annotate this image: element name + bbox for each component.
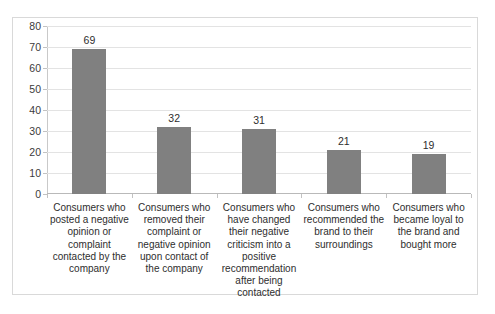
bar-slot: 69 [47, 26, 132, 194]
bar-value-label: 19 [423, 139, 435, 151]
bar-slot: 31 [217, 26, 302, 194]
x-axis-tick-mark [47, 194, 48, 198]
category-label: Consumers who became loyal to the brand … [386, 202, 471, 251]
y-axis-tick-label: 60 [29, 62, 41, 74]
clipped-header-text [0, 0, 495, 3]
plot-area: 807060504030201006932312119 [47, 26, 471, 194]
category-axis: Consumers who posted a negative opinion … [47, 202, 471, 290]
y-axis-tick-label: 10 [29, 167, 41, 179]
bar-slot: 21 [301, 26, 386, 194]
bar[interactable] [327, 150, 361, 194]
x-axis-tick-mark [301, 194, 302, 198]
category-label: Consumers who have changed their negativ… [217, 202, 302, 300]
bar-value-label: 31 [253, 114, 265, 126]
y-axis-tick-label: 50 [29, 83, 41, 95]
bar-value-label: 32 [168, 112, 180, 124]
y-axis-tick-label: 80 [29, 20, 41, 32]
bar-slot: 19 [386, 26, 471, 194]
y-axis-tick-label: 20 [29, 146, 41, 158]
bar[interactable] [412, 154, 446, 194]
bar-slot: 32 [132, 26, 217, 194]
category-label: Consumers who posted a negative opinion … [47, 202, 132, 275]
x-axis-tick-mark [217, 194, 218, 198]
bar-value-label: 69 [84, 34, 96, 46]
y-axis-tick-label: 70 [29, 41, 41, 53]
chart-container: 807060504030201006932312119 Consumers wh… [12, 17, 478, 295]
bar[interactable] [72, 49, 106, 194]
x-axis-tick-mark [471, 194, 472, 198]
y-axis-tick-label: 0 [35, 188, 41, 200]
bar[interactable] [242, 129, 276, 194]
x-axis-tick-mark [132, 194, 133, 198]
y-axis-tick-label: 40 [29, 104, 41, 116]
bar[interactable] [157, 127, 191, 194]
bar-value-label: 21 [338, 135, 350, 147]
y-axis-tick-label: 30 [29, 125, 41, 137]
category-label: Consumers who removed their complaint or… [132, 202, 217, 275]
category-label: Consumers who recommended the brand to t… [301, 202, 386, 251]
x-axis-tick-mark [386, 194, 387, 198]
